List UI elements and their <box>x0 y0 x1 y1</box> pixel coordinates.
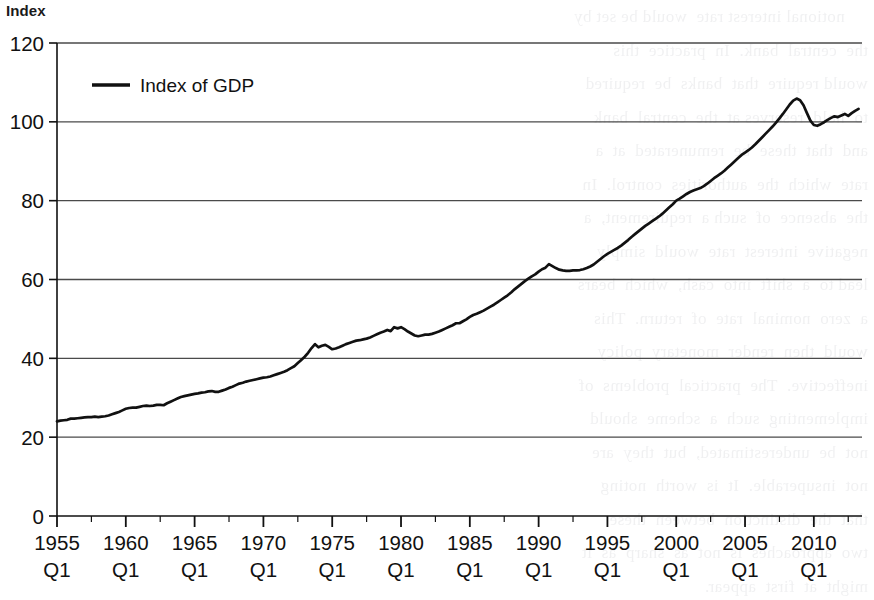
x-axis-labels-group: 1955Q11960Q11965Q11970Q11975Q11980Q11985… <box>34 531 836 581</box>
y-axis-label-20: 20 <box>21 426 44 449</box>
x-axis-label-quarter-1960: Q1 <box>112 558 139 581</box>
x-axis-label-quarter-1985: Q1 <box>456 558 483 581</box>
x-axis-label-year-1990: 1990 <box>516 531 562 554</box>
x-axis-label-year-1960: 1960 <box>103 531 149 554</box>
x-axis-label-year-1955: 1955 <box>34 531 80 554</box>
x-axis-label-year-2000: 2000 <box>653 531 699 554</box>
data-series-group <box>57 99 859 422</box>
x-axis-ticks-group <box>57 516 848 527</box>
x-axis-label-quarter-1970: Q1 <box>250 558 277 581</box>
line-index-of-gdp <box>57 99 859 422</box>
x-axis-label-year-1970: 1970 <box>241 531 287 554</box>
x-axis-label-quarter-1990: Q1 <box>525 558 552 581</box>
x-axis-label-year-1975: 1975 <box>309 531 355 554</box>
chart-title: Index <box>6 2 46 19</box>
x-axis-label-quarter-1980: Q1 <box>387 558 414 581</box>
gridlines-group <box>57 43 862 516</box>
y-axis-labels-group: 020406080100120 <box>10 32 44 528</box>
x-axis-label-year-1985: 1985 <box>447 531 493 554</box>
x-axis-label-quarter-1995: Q1 <box>594 558 621 581</box>
x-axis-label-year-1965: 1965 <box>172 531 218 554</box>
x-axis-label-quarter-1955: Q1 <box>43 558 70 581</box>
y-axis-label-100: 100 <box>10 110 44 133</box>
gdp-index-chart-figure: Index 020406080100120 1955Q11960Q11965Q1… <box>0 0 874 600</box>
x-axis-label-quarter-2005: Q1 <box>731 558 758 581</box>
x-axis-label-quarter-1975: Q1 <box>319 558 346 581</box>
x-axis-label-quarter-2000: Q1 <box>663 558 690 581</box>
x-axis-label-quarter-2010: Q1 <box>800 558 827 581</box>
y-axis-label-120: 120 <box>10 32 44 55</box>
y-axis-ticks-group <box>49 43 57 516</box>
x-axis-label-year-2005: 2005 <box>722 531 768 554</box>
x-axis-label-year-1995: 1995 <box>585 531 631 554</box>
chart-canvas: 020406080100120 1955Q11960Q11965Q11970Q1… <box>0 0 874 600</box>
x-axis-label-year-2010: 2010 <box>791 531 837 554</box>
x-axis-label-year-1980: 1980 <box>378 531 424 554</box>
y-axis-label-0: 0 <box>33 505 44 528</box>
y-axis-label-40: 40 <box>21 347 44 370</box>
legend-label: Index of GDP <box>140 75 254 96</box>
y-axis-label-80: 80 <box>21 189 44 212</box>
chart-legend: Index of GDP <box>92 75 254 96</box>
y-axis-label-60: 60 <box>21 268 44 291</box>
x-axis-label-quarter-1965: Q1 <box>181 558 208 581</box>
